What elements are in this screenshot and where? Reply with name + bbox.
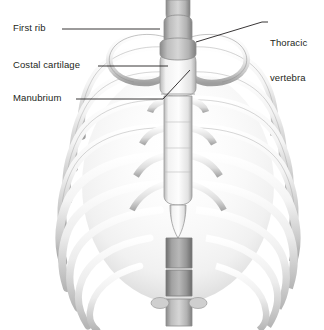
anatomy-figure: First rib Costal cartilage Manubrium Tho… — [0, 0, 324, 330]
label-thoracic-vertebra-line1: Thoracic — [270, 37, 307, 49]
sternum-body — [164, 96, 192, 205]
label-thoracic-vertebra: Thoracic vertebra — [270, 14, 307, 106]
label-thoracic-vertebra-line2: vertebra — [270, 72, 307, 84]
label-first-rib: First rib — [13, 22, 46, 34]
label-manubrium: Manubrium — [13, 92, 61, 104]
label-costal-cartilage: Costal cartilage — [13, 59, 80, 71]
